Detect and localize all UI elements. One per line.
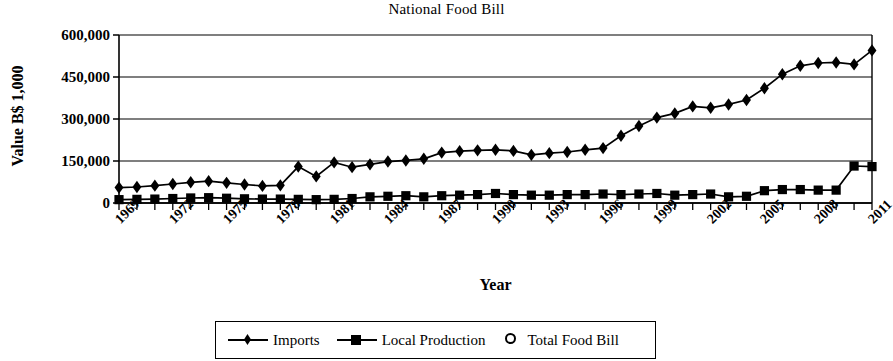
data-point-marker [222,177,231,189]
open-circle-marker-icon [502,333,522,347]
data-point-marker [115,181,124,193]
data-point-marker [868,44,877,56]
legend-item: Imports [228,332,320,349]
data-point-marker [437,146,446,158]
data-point-marker [437,191,446,200]
data-point-marker [491,144,500,156]
legend-label: Imports [273,332,320,349]
data-point-marker [222,194,231,203]
data-point-marker [832,56,841,68]
data-point-marker [652,111,661,123]
data-point-marker [670,107,679,119]
data-point-marker [455,145,464,157]
data-point-marker [742,192,751,201]
data-point-marker [150,194,159,203]
data-point-marker [545,147,554,159]
data-point-marker [688,190,697,199]
data-point-marker [581,144,590,156]
data-point-marker [706,189,715,198]
diamond-marker-icon [228,333,268,347]
data-point-marker [509,145,518,157]
data-point-marker [204,175,213,187]
legend-item: Total Food Bill [502,332,618,349]
data-point-marker [114,195,123,204]
data-point-marker [670,191,679,200]
data-point-marker [168,194,177,203]
data-point-marker [778,68,787,80]
data-point-marker [634,189,643,198]
data-point-marker [832,186,841,195]
plot-area [0,0,893,361]
data-point-marker [419,192,428,201]
data-point-marker [796,185,805,194]
chart-legend: ImportsLocal ProductionTotal Food Bill [215,321,656,359]
data-point-marker [688,100,697,112]
legend-item: Local Production [337,332,486,349]
legend-label: Total Food Bill [527,332,618,349]
data-point-marker [616,190,625,199]
data-point-marker [581,190,590,199]
data-point-marker [401,191,410,200]
data-point-marker [760,186,769,195]
data-point-marker [563,146,572,158]
data-point-marker [850,58,859,70]
data-point-marker [312,170,321,182]
data-point-marker [365,192,374,201]
data-point-marker [258,194,267,203]
data-point-marker [330,195,339,204]
data-point-marker [347,194,356,203]
data-point-marker [527,191,536,200]
data-point-marker [348,161,357,173]
data-point-marker [240,178,249,190]
data-point-marker [383,192,392,201]
data-point-marker [778,185,787,194]
data-point-marker [706,102,715,114]
data-point-marker [383,155,392,167]
data-point-marker [473,190,482,199]
data-point-marker [132,195,141,204]
data-point-marker [617,130,626,142]
data-point-marker [366,158,375,170]
square-marker-icon [337,333,377,347]
data-point-marker [598,189,607,198]
data-point-marker [168,178,177,190]
data-point-marker [814,186,823,195]
data-point-marker [330,156,339,168]
data-point-marker [150,179,159,191]
data-point-marker [186,176,195,188]
data-point-marker [634,120,643,132]
data-point-marker [419,153,428,165]
data-point-marker [563,190,572,199]
data-point-marker [724,98,733,110]
data-point-marker [509,190,518,199]
data-point-marker [849,161,858,170]
data-point-marker [455,191,464,200]
data-point-marker [545,191,554,200]
data-point-marker [240,194,249,203]
data-point-marker [491,189,500,198]
data-point-marker [760,82,769,94]
data-point-marker [473,144,482,156]
data-point-marker [814,57,823,69]
data-point-marker [742,94,751,106]
legend-label: Local Production [382,332,486,349]
data-point-marker [294,195,303,204]
data-point-marker [132,181,141,193]
data-point-marker [599,142,608,154]
data-point-marker [527,149,536,161]
data-point-marker [276,194,285,203]
data-point-marker [796,60,805,72]
national-food-bill-chart: National Food Bill Value B$ 1,000 Year 0… [0,0,893,361]
data-point-marker [652,189,661,198]
data-point-marker [312,195,321,204]
data-point-marker [258,180,267,192]
data-point-marker [867,162,876,171]
data-point-marker [204,193,213,202]
data-point-marker [186,193,195,202]
data-point-marker [401,154,410,166]
data-point-marker [724,192,733,201]
